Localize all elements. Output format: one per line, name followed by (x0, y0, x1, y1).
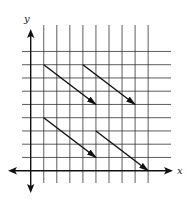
grid-lines (22, 25, 171, 183)
coordinate-grid-diagram: x y (0, 0, 189, 200)
y-axis-label: y (23, 13, 30, 24)
x-axis-label: x (177, 165, 183, 176)
axes: x y (8, 13, 183, 193)
